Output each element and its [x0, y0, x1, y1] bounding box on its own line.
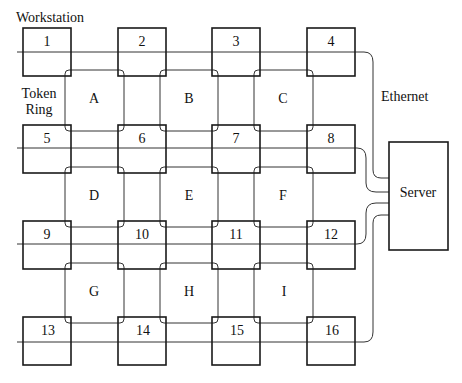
workstation-number-14: 14	[136, 323, 150, 339]
ring-label-g: G	[89, 284, 99, 300]
ethernet-bus-lines	[17, 52, 389, 342]
workstation-number-1: 1	[44, 34, 51, 50]
ethernet-line-row1	[17, 52, 389, 178]
ring-label-i: I	[282, 284, 287, 300]
workstation-label: Workstation	[16, 10, 84, 26]
workstation-number-8: 8	[328, 131, 335, 147]
workstation-number-6: 6	[139, 131, 146, 147]
ring-label-b: B	[184, 91, 193, 107]
workstation-number-5: 5	[44, 131, 51, 147]
workstation-number-4: 4	[328, 34, 335, 50]
workstation-number-11: 11	[229, 227, 242, 243]
workstation-number-10: 10	[135, 227, 149, 243]
ethernet-line-row2	[17, 148, 389, 192]
workstation-number-12: 12	[324, 227, 338, 243]
ethernet-label: Ethernet	[381, 89, 428, 105]
workstation-number-7: 7	[233, 131, 240, 147]
ring-label-a: A	[89, 91, 99, 107]
ring-label-d: D	[89, 188, 99, 204]
ring-label-f: F	[279, 188, 287, 204]
workstation-number-15: 15	[230, 323, 244, 339]
workstation-number-13: 13	[41, 323, 55, 339]
workstation-number-16: 16	[325, 323, 339, 339]
server-label: Server	[400, 185, 437, 201]
token-ring-label-line1: Token	[22, 86, 57, 102]
workstation-number-9: 9	[44, 227, 51, 243]
ring-label-e: E	[185, 188, 194, 204]
ring-label-c: C	[278, 91, 287, 107]
workstation-number-2: 2	[139, 34, 146, 50]
workstation-number-3: 3	[233, 34, 240, 50]
token-ring-label-line2: Ring	[25, 102, 52, 118]
ring-label-h: H	[184, 284, 194, 300]
